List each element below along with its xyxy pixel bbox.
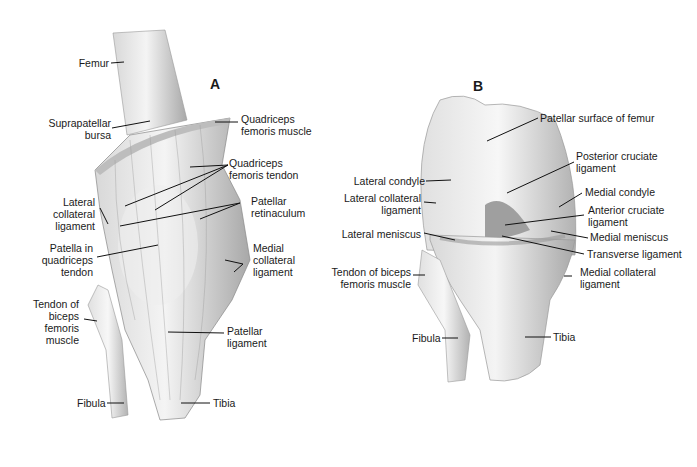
label-suprapatellar-bursa: Suprapatellar bursa xyxy=(49,117,111,141)
label-lateral-collateral-ligament-b: Lateral collateral ligament xyxy=(344,192,421,216)
label-fibula-b: Fibula xyxy=(412,332,441,344)
label-tendon-of-biceps-femoris-a: Tendon of biceps femoris muscle xyxy=(33,298,79,346)
label-fibula-a: Fibula xyxy=(77,397,106,409)
panel-a-label: A xyxy=(210,76,220,92)
label-patellar-ligament: Patellar ligament xyxy=(227,325,267,349)
label-patellar-retinaculum: Patellar retinaculum xyxy=(251,195,305,219)
label-tendon-of-biceps-femoris-b: Tendon of biceps femoris muscle xyxy=(332,266,411,290)
panel-a-art xyxy=(88,30,250,420)
label-medial-collateral-ligament-b: Medial collateral ligament xyxy=(580,266,656,290)
label-quadriceps-femoris-muscle: Quadriceps femoris muscle xyxy=(241,113,312,137)
label-lateral-collateral-ligament: Lateral collateral ligament xyxy=(53,196,95,232)
label-quadriceps-femoris-tendon: Quadriceps femoris tendon xyxy=(229,157,298,181)
label-patella-in-quadriceps-tendon: Patella in quadriceps tendon xyxy=(42,242,93,278)
label-medial-collateral-ligament-a: Medial collateral ligament xyxy=(253,242,295,278)
label-transverse-ligament: Transverse ligament xyxy=(587,248,682,260)
label-tibia-a: Tibia xyxy=(213,397,235,409)
label-lateral-meniscus: Lateral meniscus xyxy=(342,228,421,240)
label-lateral-condyle: Lateral condyle xyxy=(354,175,425,187)
label-posterior-cruciate-ligament: Posterior cruciate ligament xyxy=(576,150,658,174)
label-tibia-b: Tibia xyxy=(553,331,575,343)
label-medial-meniscus: Medial meniscus xyxy=(590,231,668,243)
label-medial-condyle: Medial condyle xyxy=(585,186,655,198)
panel-b-label: B xyxy=(473,78,483,94)
label-anterior-cruciate-ligament: Anterior cruciate ligament xyxy=(588,204,664,228)
label-femur: Femur xyxy=(79,57,109,69)
label-patellar-surface-of-femur: Patellar surface of femur xyxy=(540,112,654,124)
knee-anatomy-diagram: A B Femur Suprapatellar bursa Quadriceps… xyxy=(0,0,697,467)
